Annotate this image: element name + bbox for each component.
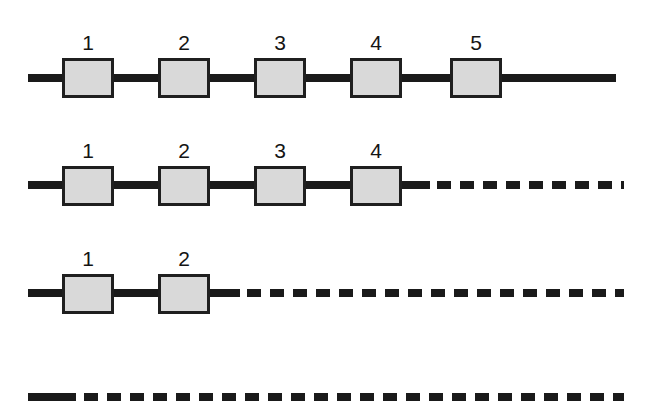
exon-number-label: 3 <box>274 139 286 162</box>
dashed-backbone-dash <box>460 181 474 189</box>
dashed-backbone-dash <box>337 393 351 401</box>
exon-box <box>64 276 113 313</box>
solid-backbone-segment <box>28 393 76 401</box>
exon-number-label: 5 <box>470 31 482 54</box>
dashed-backbone-dash <box>544 393 558 401</box>
dashed-backbone-dash <box>429 393 443 401</box>
dashed-backbone-dash <box>575 181 589 189</box>
dashed-backbone-dash <box>247 289 261 297</box>
exon-number-label: 1 <box>82 247 94 270</box>
dashed-backbone-dash <box>613 393 624 401</box>
exon-box <box>160 60 209 97</box>
exon-number-label: 2 <box>178 139 190 162</box>
dashed-backbone-dash <box>293 289 307 297</box>
dashed-backbone-dash <box>385 289 399 297</box>
dashed-backbone-dash <box>107 393 121 401</box>
exon-box <box>352 60 401 97</box>
exon-box <box>64 60 113 97</box>
dashed-backbone-dash <box>130 393 144 401</box>
exon-number-label: 1 <box>82 139 94 162</box>
dashed-backbone-dash <box>84 393 98 401</box>
dashed-backbone-dash <box>477 289 491 297</box>
exon-number-label: 4 <box>370 139 382 162</box>
dashed-backbone-dash <box>270 289 284 297</box>
dashed-backbone-dash <box>452 393 466 401</box>
dashed-backbone-dash <box>291 393 305 401</box>
dashed-backbone-dash <box>176 393 190 401</box>
exon-box <box>256 60 305 97</box>
dashed-backbone-dash <box>483 181 497 189</box>
dashed-backbone-dash <box>314 393 328 401</box>
dashed-backbone-dash <box>222 393 236 401</box>
dashed-backbone-dash <box>552 181 566 189</box>
dashed-backbone-dash <box>598 181 612 189</box>
dashed-backbone-dash <box>245 393 259 401</box>
dashed-backbone-dash <box>569 289 583 297</box>
dashed-backbone-dash <box>316 289 330 297</box>
gene-structure-diagram: 12345123412 <box>0 0 649 415</box>
exon-box <box>352 168 401 205</box>
dashed-backbone-dash <box>383 393 397 401</box>
dashed-backbone-dash <box>621 181 624 189</box>
dashed-backbone-dash <box>500 289 514 297</box>
exon-number-label: 3 <box>274 31 286 54</box>
dashed-backbone-dash <box>408 289 422 297</box>
diagram-canvas: 12345123412 <box>0 0 649 415</box>
exon-box <box>256 168 305 205</box>
dashed-backbone-dash <box>406 393 420 401</box>
exon-number-label: 4 <box>370 31 382 54</box>
diagram-row <box>28 393 624 401</box>
dashed-backbone-dash <box>498 393 512 401</box>
exon-box <box>452 60 501 97</box>
dashed-backbone-dash <box>529 181 543 189</box>
dashed-backbone-dash <box>523 289 537 297</box>
dashed-backbone-dash <box>360 393 374 401</box>
exon-box <box>160 168 209 205</box>
dashed-backbone-dash <box>521 393 535 401</box>
dashed-backbone-dash <box>339 289 353 297</box>
dashed-backbone-dash <box>153 393 167 401</box>
dashed-backbone-dash <box>546 289 560 297</box>
dashed-backbone-dash <box>506 181 520 189</box>
dashed-backbone-dash <box>567 393 581 401</box>
exon-number-label: 2 <box>178 31 190 54</box>
dashed-backbone-dash <box>268 393 282 401</box>
dashed-backbone-dash <box>590 393 604 401</box>
dashed-backbone-dash <box>475 393 489 401</box>
exon-number-label: 2 <box>178 247 190 270</box>
dashed-backbone-dash <box>437 181 451 189</box>
dashed-backbone-dash <box>592 289 606 297</box>
solid-backbone-segment <box>28 74 616 82</box>
dashed-backbone-dash <box>431 289 445 297</box>
exon-number-label: 1 <box>82 31 94 54</box>
dashed-backbone-dash <box>615 289 624 297</box>
dashed-backbone-dash <box>199 393 213 401</box>
dashed-backbone-dash <box>454 289 468 297</box>
exon-box <box>64 168 113 205</box>
exon-box <box>160 276 209 313</box>
dashed-backbone-dash <box>362 289 376 297</box>
